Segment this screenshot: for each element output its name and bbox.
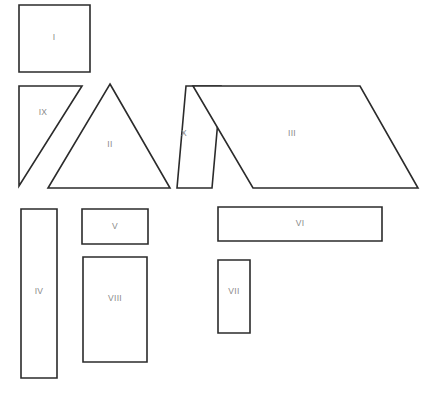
- shape-label-i: I: [53, 32, 56, 42]
- shape-label-ix: IX: [39, 107, 48, 117]
- shape-rectangle-vii[interactable]: [218, 260, 250, 333]
- shape-label-x: X: [181, 128, 187, 138]
- shape-label-iv: IV: [35, 286, 44, 296]
- shape-label-iii: III: [288, 128, 296, 138]
- shape-rectangle-viii[interactable]: [83, 257, 147, 362]
- shape-canvas: I IX II X III IV V VIII VI VII: [0, 0, 436, 393]
- shape-label-vii: VII: [228, 286, 239, 296]
- shape-label-ii: II: [107, 139, 112, 149]
- shape-label-vi: VI: [296, 218, 305, 228]
- shape-label-v: V: [112, 221, 118, 231]
- shape-label-viii: VIII: [108, 293, 122, 303]
- shape-parallelogram-iii[interactable]: [193, 86, 418, 188]
- shape-diagram: I IX II X III IV V VIII VI VII: [0, 0, 436, 393]
